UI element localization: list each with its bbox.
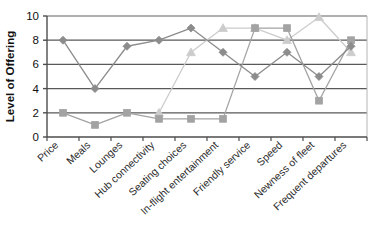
chart-container: 0246810 Level of Offering PriceMealsLoun… [0,0,373,250]
x-tick-labels: PriceMealsLoungesHub connectivitySeating… [35,138,349,217]
square-marker [156,115,163,122]
square-marker [316,97,323,104]
square-marker [188,115,195,122]
y-axis-title-text: Level of Offering [4,31,16,122]
y-tick-label: 4 [33,83,40,95]
y-tick-label: 10 [26,10,39,22]
y-tick-label: 8 [33,34,39,46]
y-tick-label: 0 [33,131,39,143]
square-marker [252,25,259,32]
square-marker [124,109,131,116]
y-tick-label: 6 [33,58,39,70]
y-tick-label: 2 [33,107,39,119]
y-tick-labels: 0246810 [26,10,39,143]
square-marker [60,109,67,116]
line-chart: 0246810 Level of Offering PriceMealsLoun… [0,0,373,250]
square-marker [284,25,291,32]
y-axis-title: Level of Offering [4,31,16,122]
x-tick-label: Friendly service [190,139,252,198]
x-tick-label: Meals [64,139,93,167]
x-axis [47,137,367,141]
square-marker [92,122,99,129]
y-axis [43,16,47,137]
square-marker [220,115,227,122]
